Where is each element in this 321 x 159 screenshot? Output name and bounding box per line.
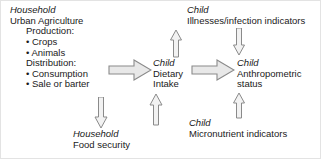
arrow-illnesses-to-anthropometric bbox=[232, 28, 246, 56]
node-household-urban-agriculture: Household Urban Agriculture Production: … bbox=[10, 5, 90, 90]
node-child-dietary-intake: Child Dietary Intake bbox=[153, 58, 183, 90]
node-plain-label-2: Intake bbox=[153, 79, 183, 90]
node-child-anthropometric: Child Anthropometric status bbox=[237, 58, 301, 90]
node-plain-label: Food security bbox=[73, 140, 130, 151]
arrow-food-security-to-dietary bbox=[149, 94, 163, 126]
arrow-ua-to-food-security bbox=[94, 97, 108, 129]
arrow-dietary-to-illnesses bbox=[169, 30, 183, 58]
arrow-dietary-to-anthropometric bbox=[191, 58, 235, 82]
node-child-micronutrient: Child Micronutrient indicators bbox=[189, 118, 287, 139]
arrow-micronutrient-to-anthropometric bbox=[232, 93, 246, 119]
node-plain-label: Illnesses/infection indicators bbox=[187, 16, 305, 27]
node-household-food-security: Household Food security bbox=[73, 129, 130, 150]
node-line-crops: • Crops bbox=[10, 37, 90, 48]
node-plain-label: Micronutrient indicators bbox=[189, 129, 287, 140]
node-plain-label-2: status bbox=[237, 79, 301, 90]
diagram-canvas: Household Urban Agriculture Production: … bbox=[0, 0, 321, 159]
arrow-ua-to-dietary bbox=[108, 58, 152, 82]
node-child-illnesses: Child Illnesses/infection indicators bbox=[187, 5, 305, 26]
node-line-sale-or-barter: • Sale or barter bbox=[10, 79, 90, 90]
